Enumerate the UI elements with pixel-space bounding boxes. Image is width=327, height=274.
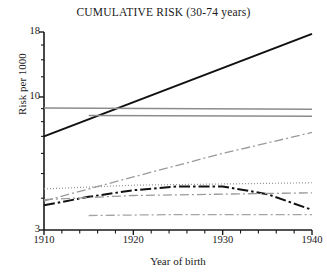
series-8-gray-dashdot-low xyxy=(89,215,312,216)
series-1-thick-solid-rising xyxy=(44,34,312,137)
series-3-gray-horizontal-lower xyxy=(89,116,312,117)
series-2-gray-horizontal-upper xyxy=(44,108,312,109)
chart-figure: CUMULATIVE RISK (30-74 years) Risk per 1… xyxy=(0,0,327,274)
series-5-gray-dotted-flat xyxy=(44,183,312,189)
series-4-gray-dashdot-rising xyxy=(44,132,312,201)
data-series-group xyxy=(44,34,312,216)
tick-marks xyxy=(39,32,312,235)
plot-canvas xyxy=(0,0,327,274)
axis-frame xyxy=(44,32,312,230)
